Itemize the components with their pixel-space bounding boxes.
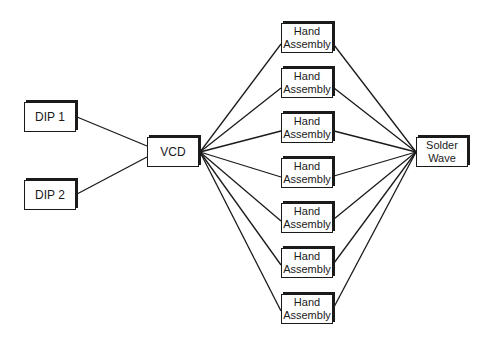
node-ha7: HandAssembly xyxy=(281,294,333,324)
edge-ha1-to-solder xyxy=(334,45,416,152)
node-label: Hand xyxy=(294,205,320,218)
node-label: Hand xyxy=(294,70,320,83)
node-solder: SolderWave xyxy=(416,137,468,167)
node-label: Hand xyxy=(294,250,320,263)
node-ha1: HandAssembly xyxy=(281,23,333,53)
node-ha3: HandAssembly xyxy=(281,113,333,143)
node-vcd: VCD xyxy=(147,137,199,167)
edge-ha6-to-solder xyxy=(334,152,416,263)
node-label: Hand xyxy=(294,296,320,309)
edge-vcd-to-ha7 xyxy=(200,152,281,311)
node-ha2: HandAssembly xyxy=(281,68,333,98)
edge-vcd-to-ha3 xyxy=(200,131,281,152)
node-label: DIP 1 xyxy=(35,111,65,124)
connector-lines xyxy=(0,0,493,345)
edge-ha4-to-solder xyxy=(334,152,416,176)
edge-vcd-to-ha5 xyxy=(200,152,281,221)
node-label: Hand xyxy=(294,160,320,173)
node-label: Assembly xyxy=(283,218,331,231)
node-label: Wave xyxy=(428,152,456,165)
edge-dip1-to-vcd xyxy=(77,117,147,146)
node-ha4: HandAssembly xyxy=(281,158,333,188)
node-label: VCD xyxy=(160,146,185,159)
node-dip2: DIP 2 xyxy=(24,180,76,210)
node-ha6: HandAssembly xyxy=(281,248,333,278)
edge-ha7-to-solder xyxy=(334,152,416,307)
edge-dip2-to-vcd xyxy=(77,157,147,194)
node-label: Assembly xyxy=(283,128,331,141)
node-label: Assembly xyxy=(283,38,331,51)
edge-vcd-to-ha6 xyxy=(200,152,281,265)
node-label: DIP 2 xyxy=(35,189,65,202)
edge-ha5-to-solder xyxy=(334,152,416,219)
node-label: Hand xyxy=(294,25,320,38)
node-ha5: HandAssembly xyxy=(281,203,333,233)
node-label: Assembly xyxy=(283,309,331,322)
edge-vcd-to-ha4 xyxy=(200,152,281,177)
node-label: Hand xyxy=(294,115,320,128)
node-dip1: DIP 1 xyxy=(24,102,76,132)
flow-diagram: DIP 1DIP 2VCDHandAssemblyHandAssemblyHan… xyxy=(0,0,493,345)
node-label: Assembly xyxy=(283,83,331,96)
node-label: Assembly xyxy=(283,173,331,186)
node-label: Assembly xyxy=(283,263,331,276)
node-label: Solder xyxy=(426,139,458,152)
edge-ha3-to-solder xyxy=(334,131,416,152)
